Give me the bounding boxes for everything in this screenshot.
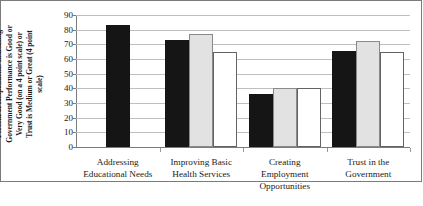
bar-group [249, 14, 321, 147]
y-axis-tick-label: 20 [51, 113, 73, 122]
bar [356, 41, 380, 147]
y-axis-tick-mark [73, 59, 76, 60]
plot-area: 9080706050403020100 [76, 15, 410, 148]
y-axis-tick-mark [73, 74, 76, 75]
bar [106, 25, 130, 147]
y-axis-tick-mark [73, 88, 76, 89]
y-axis-tick-label: 10 [51, 128, 73, 137]
x-axis-separator [410, 148, 411, 152]
y-axis-tick-label: 70 [51, 40, 73, 49]
bar-group [332, 14, 404, 147]
bar [213, 52, 237, 147]
x-axis-category-label: Creating Employment Opportunities [243, 156, 327, 193]
x-axis-category-label: Improving Basic Health Services [160, 156, 244, 180]
y-axis-title: Percent of Respondents Indicating Govern… [0, 6, 48, 162]
y-axis-tick-label: 0 [51, 143, 73, 152]
y-axis-tick-label: 50 [51, 69, 73, 78]
y-axis-tick-mark [73, 30, 76, 31]
y-axis-tick-label: 60 [51, 55, 73, 64]
y-axis-tick-mark [73, 103, 76, 104]
bar [297, 88, 321, 147]
bar [332, 51, 356, 147]
y-axis-tick-label: 30 [51, 99, 73, 108]
x-axis-separator [327, 148, 328, 152]
bar [380, 52, 404, 147]
bar [165, 40, 189, 147]
x-axis-separator [160, 148, 161, 152]
bar [249, 94, 273, 147]
bar [189, 34, 213, 147]
y-axis-tick-label: 80 [51, 25, 73, 34]
y-axis-tick-mark [73, 147, 76, 148]
bar-group [106, 14, 130, 147]
x-axis-separator [243, 148, 244, 152]
x-axis-category-label: Trust in the Government [327, 156, 411, 180]
y-axis-tick-mark [73, 44, 76, 45]
y-axis-tick-mark [73, 15, 76, 16]
x-axis-category-label: Addressing Educational Needs [76, 156, 160, 180]
bar-chart: Percent of Respondents Indicating Govern… [0, 0, 423, 206]
bar [273, 88, 297, 147]
y-axis-tick-label: 40 [51, 84, 73, 93]
y-axis-line [76, 15, 77, 148]
bar-group [165, 14, 237, 147]
y-axis-tick-label: 90 [51, 11, 73, 20]
y-axis-tick-mark [73, 118, 76, 119]
x-axis-category-labels: Addressing Educational NeedsImproving Ba… [76, 156, 410, 206]
y-axis-tick-mark [73, 132, 76, 133]
